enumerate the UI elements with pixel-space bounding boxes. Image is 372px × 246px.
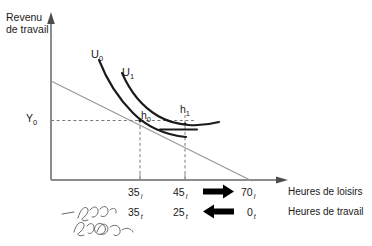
h1-point-marker xyxy=(183,122,186,125)
budget-line xyxy=(51,81,252,181)
y0-subscript: 0 xyxy=(33,118,37,127)
h1-base: h xyxy=(180,103,186,115)
direction-arrow-right xyxy=(203,185,234,199)
axis-x-title-travail: Heures de travail xyxy=(288,206,364,217)
leisure-tick-45-value: 45 xyxy=(173,186,185,198)
work-tick-label-25: 25t xyxy=(173,206,187,218)
h1-subscript: 1 xyxy=(186,109,190,118)
leisure-tick-70-value: 70 xyxy=(241,186,253,198)
guide-lines-group xyxy=(51,115,196,180)
leisure-tick-label-70: 70l xyxy=(241,186,254,198)
u0-subscript: 0 xyxy=(99,54,103,63)
leisure-tick-label-35: 35l xyxy=(128,186,141,198)
axis-x-title-loisirs: Heures de loisirs xyxy=(288,186,362,197)
leisure-tick-label-45: 45l xyxy=(173,186,186,198)
work-tick-label-35: 35t xyxy=(128,206,142,218)
work-tick-35-value: 35 xyxy=(128,206,140,218)
u1-base: U xyxy=(122,66,130,78)
indifference-curve-u0 xyxy=(99,60,186,137)
work-tick-0-subscript: t xyxy=(254,213,256,220)
axis-y-title-line1: Revenu xyxy=(6,11,42,23)
work-tick-label-0: 0t xyxy=(247,206,255,218)
y0-tick-label: Y0 xyxy=(26,113,37,125)
axis-y-title-line2: de travail xyxy=(6,23,49,35)
curve-label-u0: U0 xyxy=(91,48,103,60)
handwritten-note xyxy=(62,207,133,236)
axis-y-title: Revenu de travail xyxy=(6,12,52,36)
leisure-tick-35-value: 35 xyxy=(128,186,140,198)
u0-base: U xyxy=(91,48,99,60)
work-tick-35-subscript: t xyxy=(141,213,143,220)
u1-subscript: 1 xyxy=(130,72,134,81)
direction-arrow-left xyxy=(203,205,234,219)
curve-label-u1: U1 xyxy=(122,66,134,78)
x-axis-arrowhead xyxy=(276,176,288,183)
h0-subscript: 0 xyxy=(147,115,151,124)
work-tick-0-value: 0 xyxy=(247,206,253,218)
y0-base: Y xyxy=(26,112,33,124)
h0-base: h xyxy=(141,109,147,121)
work-tick-25-value: 25 xyxy=(173,206,185,218)
point-label-h1: h1 xyxy=(180,104,190,116)
point-label-h0: h0 xyxy=(141,110,151,122)
work-tick-25-subscript: t xyxy=(186,213,188,220)
